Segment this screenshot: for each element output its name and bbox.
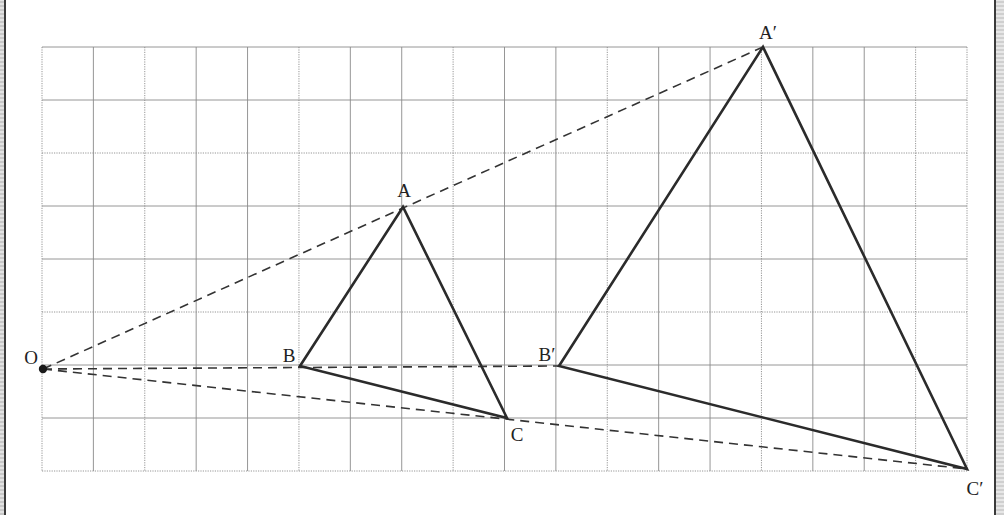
label-a: A	[397, 180, 411, 201]
label-a-prime: A′	[759, 22, 777, 43]
label-o: O	[24, 347, 38, 368]
point-labels: OABCA′B′C′	[24, 22, 983, 499]
dilation-diagram: OABCA′B′C′	[0, 0, 1004, 515]
label-b-prime: B′	[539, 344, 556, 365]
triangle-abc	[300, 207, 507, 418]
center-point	[39, 365, 47, 373]
label-b: B	[283, 345, 296, 366]
dashed-rays	[43, 47, 967, 469]
center-dot-icon	[39, 365, 47, 373]
label-c: C	[511, 424, 524, 445]
dashed-ray-c	[43, 369, 967, 469]
triangles	[300, 47, 967, 469]
grid	[42, 47, 967, 471]
label-c-prime: C′	[967, 478, 984, 499]
